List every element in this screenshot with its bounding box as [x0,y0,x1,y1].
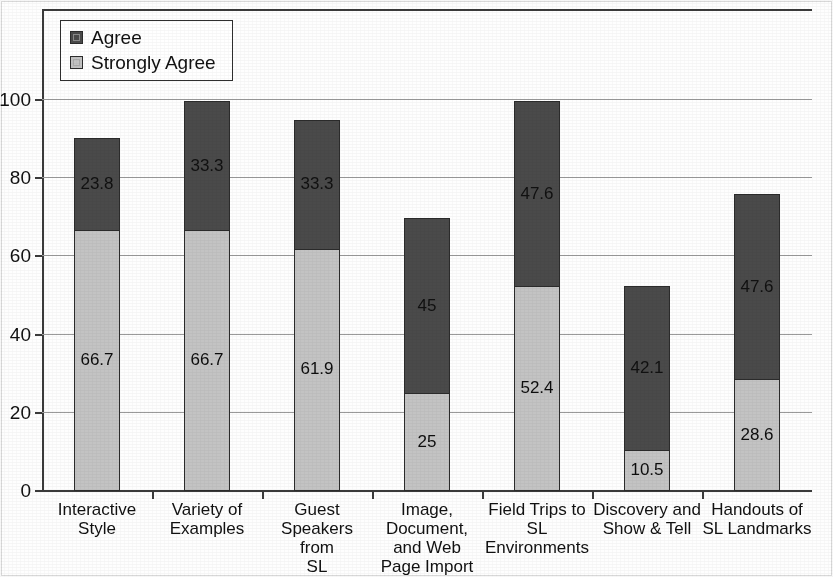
bar-value-label: 23.8 [80,175,113,192]
x-tick-mark [152,490,154,499]
y-axis-label: 40 [10,324,31,343]
x-category-label-line: Interactive [42,500,152,519]
bar-segment-strongly-agree[interactable]: 61.9 [294,249,340,491]
x-category-label: GuestSpeakers fromSL [262,500,372,576]
x-category-label-line: Field Trips to [482,500,592,519]
x-category-label-line: Speakers from [262,519,372,557]
x-category-labels: InteractiveStyleVariety ofExamplesGuestS… [42,500,812,577]
x-category-label-line: Show & Tell [592,519,702,538]
stacked-bar[interactable]: 4525 [404,218,450,490]
legend-label-strongly-agree: Strongly Agree [91,53,216,72]
y-axis-label: 60 [10,246,31,265]
x-category-label-line: Document, [372,519,482,538]
legend-swatch-icon-agree [70,31,83,44]
bar-segment-strongly-agree[interactable]: 66.7 [184,230,230,491]
stacked-bar[interactable]: 47.652.4 [514,101,560,490]
bar-value-label: 45 [418,297,437,314]
x-category-label-line: Environments [482,538,592,557]
bar-value-label: 52.4 [520,379,553,396]
bar-value-label: 33.3 [300,175,333,192]
y-axis-label: 80 [10,168,31,187]
bar-value-label: 33.3 [190,157,223,174]
x-category-label: Handouts ofSL Landmarks [702,500,812,538]
legend-item-strongly-agree: Strongly Agree [70,53,216,72]
x-tick-mark [702,490,704,499]
bar-segment-agree[interactable]: 33.3 [294,120,340,250]
x-category-label-line: Page Import [372,557,482,576]
bar-segment-agree[interactable]: 45 [404,218,450,394]
x-tick-mark [262,490,264,499]
y-tick-mark [35,99,42,101]
y-tick-mark [35,412,42,414]
x-category-label-line: Handouts of [702,500,812,519]
x-category-label-line: SL [482,519,592,538]
bar-segment-strongly-agree[interactable]: 10.5 [624,450,670,491]
chart-legend: Agree Strongly Agree [60,20,233,81]
bar-segment-strongly-agree[interactable]: 28.6 [734,379,780,491]
x-category-label: Variety ofExamples [152,500,262,538]
legend-item-agree: Agree [70,28,216,47]
x-category-label: Field Trips toSLEnvironments [482,500,592,557]
gridline [42,177,812,178]
x-category-label-line: Image, [372,500,482,519]
stacked-bar[interactable]: 42.110.5 [624,286,670,490]
x-category-label-line: Variety of [152,500,262,519]
bar-segment-agree[interactable]: 42.1 [624,286,670,451]
bar-value-label: 47.6 [740,278,773,295]
bar-value-label: 25 [418,433,437,450]
bar-value-label: 10.5 [630,461,663,478]
x-category-label: InteractiveStyle [42,500,152,538]
bar-value-label: 61.9 [300,360,333,377]
bar-value-label: 66.7 [80,351,113,368]
stacked-bar[interactable]: 33.366.7 [184,101,230,490]
y-axis-label: 0 [20,481,31,500]
x-tick-mark [482,490,484,499]
x-category-label-line: Guest [262,500,372,519]
plot-area: 020406080100 23.866.733.366.733.361.9452… [42,9,812,490]
legend-swatch-icon-strongly-agree [70,56,83,69]
x-category-label-line: SL Landmarks [702,519,812,538]
bar-segment-agree[interactable]: 23.8 [74,138,120,231]
bar-value-label: 66.7 [190,351,223,368]
y-axis-label: 20 [10,402,31,421]
bar-segment-strongly-agree[interactable]: 25 [404,393,450,491]
x-category-label-line: Examples [152,519,262,538]
bar-value-label: 47.6 [520,185,553,202]
x-category-label: Discovery andShow & Tell [592,500,702,538]
bar-segment-strongly-agree[interactable]: 66.7 [74,230,120,491]
gridline [42,99,812,100]
y-tick-mark [35,334,42,336]
x-category-label-line: Discovery and [592,500,702,519]
x-category-label-line: Style [42,519,152,538]
x-tick-mark [592,490,594,499]
y-tick-mark [35,177,42,179]
x-category-label-line: and Web [372,538,482,557]
bar-segment-agree[interactable]: 33.3 [184,101,230,231]
x-category-label: Image,Document,and WebPage Import [372,500,482,576]
x-tick-mark [372,490,374,499]
bar-value-label: 28.6 [740,426,773,443]
bar-segment-agree[interactable]: 47.6 [514,101,560,287]
chart-page: 020406080100 23.866.733.366.733.361.9452… [0,0,833,577]
stacked-bar[interactable]: 33.361.9 [294,120,340,490]
legend-label-agree: Agree [91,28,142,47]
y-tick-mark [35,255,42,257]
x-category-label-line: SL [262,557,372,576]
y-tick-mark [35,490,42,492]
bar-value-label: 42.1 [630,359,663,376]
y-axis-line [42,9,44,490]
y-axis-label: 100 [0,90,31,109]
bar-segment-agree[interactable]: 47.6 [734,194,780,380]
bar-segment-strongly-agree[interactable]: 52.4 [514,286,560,491]
plot-top-border [42,9,812,11]
stacked-bar[interactable]: 47.628.6 [734,194,780,490]
stacked-bar[interactable]: 23.866.7 [74,138,120,490]
